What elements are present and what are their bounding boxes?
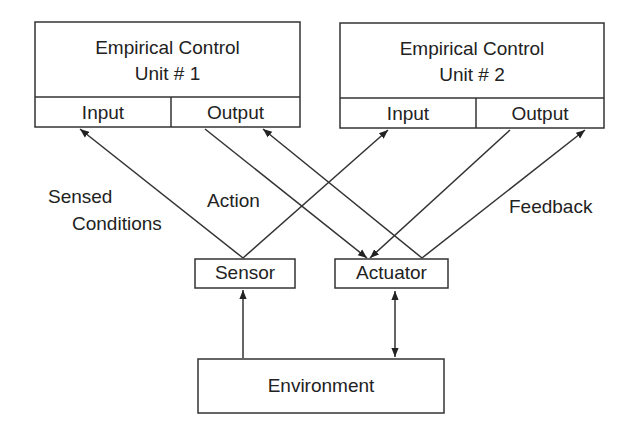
actuator-node: Actuator [335, 262, 448, 284]
unit2-title: Empirical Control Unit # 2 [340, 38, 604, 86]
action-label: Action [207, 190, 260, 212]
sensed-conditions-label: Sensed Conditions [48, 186, 162, 235]
unit2-output-port: Output [476, 103, 604, 125]
unit1-output-port: Output [171, 102, 300, 124]
environment-node: Environment [198, 375, 444, 397]
feedback-label: Feedback [509, 196, 592, 218]
unit1-input-port: Input [35, 102, 171, 124]
sensor-node: Sensor [195, 262, 295, 284]
unit1-title: Empirical Control Unit # 1 [35, 37, 300, 85]
unit2-input-port: Input [340, 103, 476, 125]
